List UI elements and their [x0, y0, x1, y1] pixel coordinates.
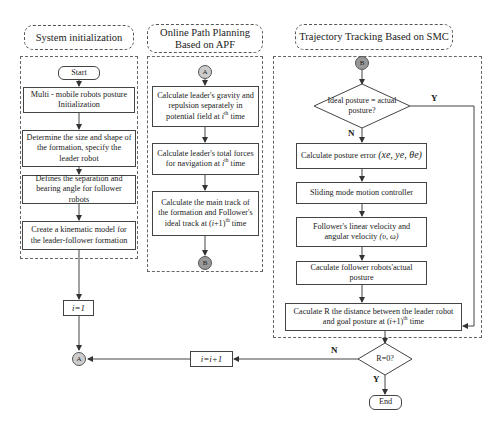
step-text: Follower's linear velocity and angular v…: [300, 222, 423, 243]
counter-init-label: i=1: [72, 303, 85, 314]
text-part: +1): [392, 317, 403, 326]
text-part: +1): [214, 219, 225, 228]
decision1-no-label: N: [348, 128, 355, 138]
decision-text: Ideal posture = actual posture?: [327, 96, 396, 115]
decision1-yes-label: Y: [431, 93, 438, 103]
step-gravity-repulsion: Calculate leader's gravity and repulsion…: [152, 86, 259, 127]
step-text: Caculate R the distance between the lead…: [289, 307, 458, 328]
connector-label: B: [203, 259, 208, 267]
step-posture-error: Calculate posture error (xe, ye, θe): [296, 143, 427, 169]
step-text: Determine the size and shape of the form…: [26, 133, 132, 165]
text-part: Calculate posture error: [301, 151, 378, 160]
connector-label: B: [360, 59, 365, 67]
end-label: End: [379, 397, 392, 408]
connector-a-top: A: [198, 65, 212, 79]
connector-a-bottom: A: [72, 352, 86, 366]
step-follower-velocity: Follower's linear velocity and angular v…: [296, 217, 427, 247]
section-header-system-init: System initialization: [24, 25, 134, 50]
step-text: Create a kinematic model for the leader-…: [26, 225, 132, 246]
step-main-track: Calculate the main track of the formatio…: [152, 191, 259, 236]
text-part: time: [229, 159, 246, 168]
step-text: Calculate posture error (xe, ye, θe): [301, 150, 422, 162]
connector-label: A: [202, 68, 207, 76]
end-terminal: End: [369, 395, 402, 410]
decision-r-zero: R=0?: [365, 354, 405, 364]
text-part: time: [230, 219, 247, 228]
step-text: Calculate leader's total forces for navi…: [156, 149, 255, 170]
decision2-yes-label: Y: [373, 374, 380, 384]
counter-increment-label: i=i+1: [201, 354, 223, 365]
step-text: Calculate the main track of the formatio…: [156, 198, 255, 230]
start-terminal: Start: [58, 66, 100, 80]
step-text: Caculate follower robots'actual posture: [300, 263, 423, 284]
step-total-forces: Calculate leader's total forces for navi…: [152, 143, 259, 175]
connector-b-bottom: B: [198, 256, 212, 270]
step-text: Multi - mobile robots posture Initializa…: [27, 90, 131, 111]
step-kinematic-model: Create a kinematic model for the leader-…: [22, 221, 136, 250]
counter-init-box: i=1: [63, 300, 94, 316]
step-separation-bearing: Defines the separation and bearing angle…: [22, 175, 136, 204]
decision2-no-label: N: [331, 345, 338, 355]
section-header-smc: Trajectory Tracking Based on SMC: [295, 24, 453, 50]
section-header-apf: Online Path Planning Based on APF: [147, 24, 263, 53]
start-label: Start: [71, 68, 86, 79]
section-title: Trajectory Tracking Based on SMC: [299, 31, 449, 43]
math-expression: (xe, ye, θe): [378, 149, 422, 160]
decision-text: R=0?: [376, 354, 393, 363]
section-title: Online Path Planning Based on APF: [148, 27, 262, 51]
text-part: time: [408, 317, 425, 326]
step-text: Calculate leader's gravity and repulsion…: [156, 91, 255, 123]
connector-b-top: B: [355, 56, 369, 70]
step-distance-r: Caculate R the distance between the lead…: [285, 303, 462, 331]
step-sliding-mode-controller: Sliding mode motion controller: [296, 182, 427, 204]
text-part: time: [228, 112, 245, 121]
counter-increment-box: i=i+1: [190, 351, 233, 367]
step-follower-actual-posture: Caculate follower robots'actual posture: [296, 261, 427, 285]
math-expression: (υ, ω): [379, 232, 398, 241]
connector-label: A: [76, 355, 81, 363]
step-formation-shape: Determine the size and shape of the form…: [22, 130, 136, 167]
text-part: Caculate R the distance between the lead…: [294, 307, 454, 327]
decision-ideal-posture: Ideal posture = actual posture?: [326, 96, 398, 116]
section-title: System initialization: [36, 32, 123, 44]
step-text: Defines the separation and bearing angle…: [26, 174, 132, 206]
step-posture-init: Multi - mobile robots posture Initializa…: [23, 87, 135, 113]
step-text: Sliding mode motion controller: [310, 188, 413, 199]
